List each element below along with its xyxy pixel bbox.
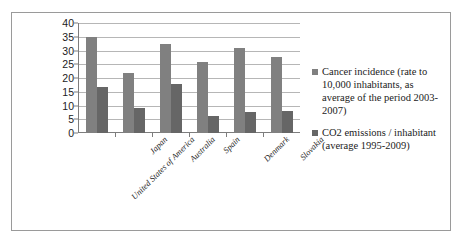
chart-legend: Cancer incidence (rate to 10,000 inhabit… <box>312 65 442 161</box>
bar-groups <box>78 23 300 133</box>
legend-swatch-series-1 <box>312 69 318 75</box>
bar-group <box>271 23 293 133</box>
y-axis-tick-label: 20 <box>62 73 74 84</box>
y-axis-tick-label: 0 <box>68 128 74 139</box>
bar-series-2[interactable] <box>245 112 256 133</box>
bar-series-2[interactable] <box>134 108 145 133</box>
category-label: Spain <box>221 135 241 155</box>
y-axis-tick-label: 35 <box>62 32 74 43</box>
category-axis-labels: United States of AmericaJapanAustraliaSp… <box>78 135 300 225</box>
plot-area: 4035302520151050 <box>78 23 300 133</box>
bar-series-2[interactable] <box>208 116 219 133</box>
bar-series-1[interactable] <box>123 73 134 134</box>
bar-group <box>234 23 256 133</box>
bar-series-1[interactable] <box>197 62 208 134</box>
y-axis-tick-label: 5 <box>68 114 74 125</box>
bar-series-2[interactable] <box>97 87 108 133</box>
bar-series-1[interactable] <box>160 44 171 133</box>
legend-label: CO2 emissions / inhabitant (average 1995… <box>322 126 442 152</box>
legend-swatch-series-2 <box>312 130 318 136</box>
legend-entry[interactable]: CO2 emissions / inhabitant (average 1995… <box>312 126 442 152</box>
category-label: Japan <box>148 135 169 156</box>
bar-series-2[interactable] <box>171 84 182 134</box>
bar-series-1[interactable] <box>271 57 282 133</box>
y-axis-tick-label: 25 <box>62 59 74 70</box>
bar-series-2[interactable] <box>282 111 293 133</box>
y-axis-tick-label: 15 <box>62 87 74 98</box>
bar-series-1[interactable] <box>86 37 97 133</box>
bar-group <box>197 23 219 133</box>
bar-group <box>123 23 145 133</box>
y-axis-tick-label: 10 <box>62 100 74 111</box>
category-label: Denmark <box>262 135 290 163</box>
y-axis-tick-label: 40 <box>62 18 74 29</box>
bar-group <box>160 23 182 133</box>
chart-frame: 4035302520151050 United States of Americ… <box>11 12 451 231</box>
y-axis-tick-label: 30 <box>62 45 74 56</box>
bar-series-1[interactable] <box>234 48 245 133</box>
bar-group <box>86 23 108 133</box>
legend-entry[interactable]: Cancer incidence (rate to 10,000 inhabit… <box>312 65 442 117</box>
legend-label: Cancer incidence (rate to 10,000 inhabit… <box>322 65 442 117</box>
